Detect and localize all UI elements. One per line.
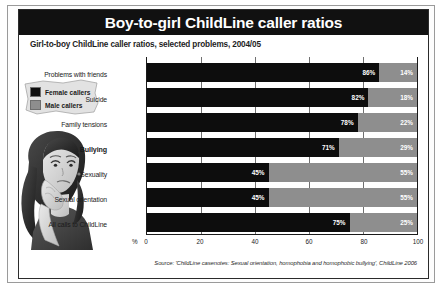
axis-unit-label: % <box>132 238 138 245</box>
bar-segment-female: 45% <box>147 163 269 182</box>
plot-area: 86% 14% 82% 18% 78% <box>146 57 418 235</box>
x-axis-line <box>147 234 417 235</box>
category-label-bullying: Bullying <box>80 146 107 154</box>
bar-segment-male: 25% <box>350 213 418 232</box>
bar-value-female: 71% <box>322 144 339 151</box>
bar-segment-male: 22% <box>358 113 417 132</box>
distressed-girl-illustration <box>18 122 101 250</box>
legend-swatch-male <box>30 100 41 110</box>
bar-value-female: 82% <box>352 94 369 101</box>
bar-segment-male: 14% <box>379 63 417 82</box>
bar-segment-female: 86% <box>147 63 379 82</box>
bar-segment-male: 55% <box>269 188 418 207</box>
page-title: Boy-to-girl ChildLine caller ratios <box>105 14 343 32</box>
bar-row-problems-with-friends: 86% 14% <box>147 63 417 82</box>
legend-item-male: Male callers <box>30 100 82 110</box>
category-label-all-calls: All calls to ChildLine <box>48 221 107 228</box>
legend-label-male: Male callers <box>45 102 82 109</box>
chart-panel: Boy-to-girl ChildLine caller ratios Girl… <box>18 9 429 279</box>
bar-row-family-tensions: 78% 22% <box>147 113 417 132</box>
bar-value-male: 55% <box>400 194 417 201</box>
bar-value-male: 22% <box>400 119 417 126</box>
bar-value-male: 14% <box>400 69 417 76</box>
plot-inner: 86% 14% 82% 18% 78% <box>146 57 418 235</box>
x-tick-0: 0 <box>144 238 148 245</box>
bar-segment-female: 75% <box>147 213 350 232</box>
bar-value-male: 55% <box>400 169 417 176</box>
chart-figure: Boy-to-girl ChildLine caller ratios Girl… <box>0 0 442 288</box>
bar-segment-female: 71% <box>147 138 339 157</box>
bar-segment-female: 45% <box>147 188 269 207</box>
bar-segment-female: 82% <box>147 88 368 107</box>
x-tick-60: 60 <box>305 238 312 245</box>
bar-value-male: 18% <box>400 94 417 101</box>
bar-segment-female: 78% <box>147 113 358 132</box>
title-bar: Boy-to-girl ChildLine caller ratios <box>19 10 428 35</box>
bar-value-male: 25% <box>400 219 417 226</box>
bar-value-female: 78% <box>341 119 358 126</box>
bar-value-female: 45% <box>252 169 269 176</box>
category-label-sexual-orientation: Sexual orientation <box>54 196 107 203</box>
bar-row-sexuality: 45% 55% <box>147 163 417 182</box>
bar-row-bullying: 71% 29% <box>147 138 417 157</box>
legend-item-female: Female callers <box>30 87 90 97</box>
legend-swatch-female <box>30 87 41 97</box>
source-citation: Source: 'ChildLine casenotes: Sexual ori… <box>154 260 417 266</box>
bar-row-sexual-orientation: 45% 55% <box>147 188 417 207</box>
chart-subtitle: Girl-to-boy ChildLine caller ratios, sel… <box>30 40 261 49</box>
x-tick-40: 40 <box>251 238 258 245</box>
bar-segment-male: 29% <box>339 138 417 157</box>
x-tick-100: 100 <box>413 238 424 245</box>
bar-value-male: 29% <box>400 144 417 151</box>
bar-value-female: 45% <box>252 194 269 201</box>
category-label-sexuality: Sexuality <box>80 171 107 178</box>
bar-row-suicide: 82% 18% <box>147 88 417 107</box>
category-label-family-tensions: Family tensions <box>61 121 107 128</box>
category-label-problems-with-friends: Problems with friends <box>44 71 107 78</box>
bar-value-female: 75% <box>333 219 350 226</box>
bar-row-all-calls: 75% 25% <box>147 213 417 232</box>
category-label-suicide: Suicide <box>85 96 107 103</box>
bar-segment-male: 18% <box>368 88 417 107</box>
x-tick-20: 20 <box>196 238 203 245</box>
bar-segment-male: 55% <box>269 163 418 182</box>
x-tick-80: 80 <box>360 238 367 245</box>
bar-value-female: 86% <box>362 69 379 76</box>
legend-label-female: Female callers <box>45 89 90 96</box>
